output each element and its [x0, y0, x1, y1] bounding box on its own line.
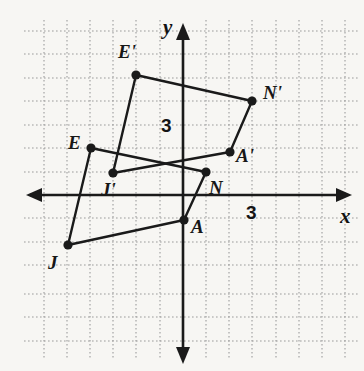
polygon-jean — [68, 148, 206, 245]
vertex-dot-N — [201, 167, 210, 176]
coordinate-plane-figure: E J A N E' J' A' N' y x 3 3 — [0, 0, 364, 371]
y-axis — [176, 23, 190, 364]
coordinate-graph-svg — [0, 0, 364, 371]
vertex-label-N: N — [209, 178, 223, 197]
vertex-dot-J — [63, 240, 72, 249]
vertex-dot-E-prime — [131, 70, 140, 79]
grid-horizontal-lines — [24, 31, 358, 341]
y-axis-tick-label-3: 3 — [161, 116, 172, 135]
x-axis-left-arrowhead — [26, 188, 42, 202]
x-axis — [26, 188, 352, 202]
y-axis-top-arrowhead — [176, 23, 190, 40]
vertex-label-E: E — [68, 133, 81, 152]
y-axis-bottom-arrowhead — [176, 347, 190, 364]
vertex-label-A-prime: A' — [236, 146, 254, 165]
x-axis-tick-label-3: 3 — [246, 203, 257, 222]
y-axis-label: y — [163, 17, 172, 38]
grid-vertical-lines — [44, 20, 345, 360]
vertex-dot-A-prime — [225, 147, 234, 156]
vertex-dot-A — [179, 215, 188, 224]
vertex-dot-E — [86, 143, 95, 152]
vertex-label-A: A — [191, 217, 204, 236]
x-axis-label: x — [340, 206, 351, 227]
x-axis-right-arrowhead — [336, 188, 352, 202]
vertex-label-N-prime: N' — [263, 83, 282, 102]
vertex-dot-J-prime — [108, 168, 117, 177]
vertex-label-E-prime: E' — [118, 42, 136, 61]
vertex-label-J-prime: J' — [101, 180, 116, 199]
vertex-dot-N-prime — [247, 96, 256, 105]
vertex-label-J: J — [48, 253, 58, 272]
